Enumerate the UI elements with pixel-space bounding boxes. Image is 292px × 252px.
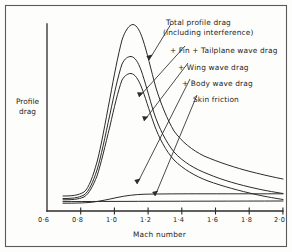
y-axis-label: Profile drag <box>16 97 39 116</box>
x-tick-label-1: 0·8 <box>72 216 83 224</box>
chart-svg <box>0 0 292 252</box>
figure-container: Profile drag Mach number 0·6 0·8 1·0 1·2… <box>0 0 292 252</box>
x-tick-label-4: 1·4 <box>173 216 184 224</box>
annotation-wing-wave-drag: + Wing wave drag <box>178 63 249 72</box>
annotation-body-wave-drag: + Body wave drag <box>182 79 253 88</box>
x-tick-label-5: 1·6 <box>207 216 218 224</box>
curve-skin-friction <box>63 201 283 202</box>
x-tick-label-6: 1·8 <box>241 216 252 224</box>
annotation-total-profile-drag-line2: (including interference) <box>163 28 253 37</box>
x-tick-label-3: 1·2 <box>140 216 151 224</box>
annotation-total-profile-drag-line1: Total profile drag <box>166 18 231 27</box>
y-axis-label-line1: Profile <box>16 97 39 107</box>
y-axis-label-line2: drag <box>16 107 39 117</box>
curve-wing-wave-drag <box>63 74 283 200</box>
x-tick-label-7: 2·0 <box>274 216 285 224</box>
annotation-fin-tailplane-wave-drag: + Fin + Tailplane wave drag <box>170 46 278 55</box>
x-tick-label-0: 0·6 <box>38 216 49 224</box>
annotation-skin-friction: Skin friction <box>193 95 239 104</box>
x-axis-title: Mach number <box>133 230 186 239</box>
x-tick-label-2: 1·0 <box>106 216 117 224</box>
